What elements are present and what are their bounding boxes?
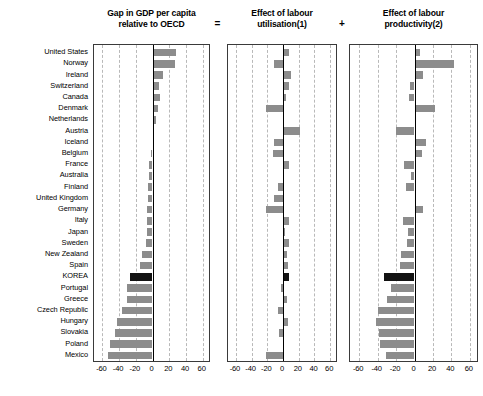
operator-equals: = [215, 18, 221, 29]
x-axis-ticks-gap-in-gdp: -60-40-200204060 [93, 364, 210, 378]
gridline [119, 45, 120, 361]
category-label: Hungary [60, 315, 88, 326]
bar [376, 318, 415, 326]
category-axis-labels: United StatesNorwayIrelandSwitzerlandCan… [0, 44, 92, 362]
gridline [299, 45, 300, 361]
panel-title-line: Gap in GDP per capita [93, 8, 210, 19]
panel-title-line: utilisation(1) [227, 19, 337, 30]
gridline [169, 45, 170, 361]
bar [404, 161, 414, 169]
bar [153, 71, 164, 79]
bar [127, 296, 153, 304]
bar [283, 127, 300, 135]
bar [153, 60, 176, 68]
bar [415, 150, 422, 158]
bar [384, 273, 414, 281]
category-label: Denmark [58, 102, 88, 113]
panel-title: Effect of labourutilisation(1) [227, 8, 337, 29]
chart-figure: United StatesNorwayIrelandSwitzerlandCan… [0, 0, 483, 396]
zero-axis-line [283, 45, 284, 361]
bar [380, 340, 414, 348]
gridline [236, 45, 237, 361]
bar [379, 329, 414, 337]
category-label: United Kingdom [36, 192, 88, 203]
bar [142, 251, 153, 259]
panel-title-line: productivity(2) [349, 19, 478, 30]
bar [274, 139, 283, 147]
gridline [470, 45, 471, 361]
category-label: Netherlands [49, 113, 88, 124]
category-label: Finland [64, 181, 88, 192]
bar [415, 71, 423, 79]
bar [266, 352, 283, 360]
panel-labour-utilisation: Effect of labourutilisation(1) -60-40-20… [227, 8, 337, 390]
category-label: Iceland [65, 136, 88, 147]
bar [415, 139, 426, 147]
panel-title: Gap in GDP per capitarelative to OECD [93, 8, 210, 29]
plot-area-gap-in-gdp [93, 44, 210, 362]
category-label: Belgium [62, 147, 88, 158]
zero-axis-line [415, 45, 416, 361]
category-label: Sweden [62, 237, 88, 248]
gridline [451, 45, 452, 361]
bar [117, 318, 153, 326]
category-label: Switzerland [50, 80, 88, 91]
plot-area-labour-utilisation [227, 44, 337, 362]
bar [122, 307, 153, 315]
x-tick-label: 60 [190, 364, 214, 373]
bar [415, 105, 435, 113]
gridline [314, 45, 315, 361]
category-label: Italy [75, 214, 88, 225]
category-label: KOREA [62, 270, 88, 281]
bar [153, 82, 160, 90]
bar [406, 183, 414, 191]
category-label: France [65, 158, 88, 169]
bar [378, 307, 415, 315]
bar [153, 49, 176, 57]
panel-title-line: Effect of labour [227, 8, 337, 19]
bar [146, 239, 153, 247]
category-label: New Zealand [45, 248, 88, 259]
category-label: Poland [65, 338, 88, 349]
bar [127, 284, 152, 292]
bar [415, 60, 455, 68]
bar [266, 105, 283, 113]
category-label: Germany [58, 203, 88, 214]
bar [108, 352, 152, 360]
bar [386, 352, 415, 360]
gridline [203, 45, 204, 361]
bar [401, 251, 415, 259]
category-label: Spain [69, 259, 88, 270]
category-label: Slovakia [60, 326, 88, 337]
category-label: Norway [63, 57, 88, 68]
x-axis-ticks-labour-productivity: -60-40-200204060 [349, 364, 478, 378]
category-label: Czech Republic [37, 304, 88, 315]
panel-labour-productivity: Effect of labourproductivity(2) -60-40-2… [349, 8, 478, 390]
bar [403, 217, 414, 225]
bar [140, 262, 153, 270]
gridline [433, 45, 434, 361]
panel-title-line: relative to OECD [93, 19, 210, 30]
category-label: Australia [60, 169, 88, 180]
category-label: Portugal [61, 282, 88, 293]
bar [391, 284, 414, 292]
category-label: Mexico [65, 349, 88, 360]
operator-plus: + [339, 18, 345, 29]
bar [407, 239, 414, 247]
bar [415, 206, 423, 214]
x-tick-label: 60 [457, 364, 481, 373]
panel-title-line: Effect of labour [349, 8, 478, 19]
bar [274, 60, 283, 68]
category-label: Greece [64, 293, 88, 304]
bar [283, 71, 291, 79]
panel-title: Effect of labourproductivity(2) [349, 8, 478, 29]
plot-area-labour-productivity [349, 44, 478, 362]
zero-axis-line [153, 45, 154, 361]
category-label: Canada [62, 91, 88, 102]
bar [396, 127, 414, 135]
bar [130, 273, 153, 281]
gridline [330, 45, 331, 361]
x-tick-label: 60 [317, 364, 341, 373]
bar [153, 94, 161, 102]
bar [115, 329, 153, 337]
